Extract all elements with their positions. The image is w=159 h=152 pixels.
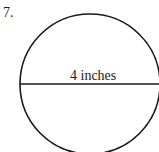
circle-diagram: 4 inches [0, 0, 159, 152]
diameter-label: 4 inches [70, 68, 116, 83]
circle-outline [20, 14, 159, 152]
